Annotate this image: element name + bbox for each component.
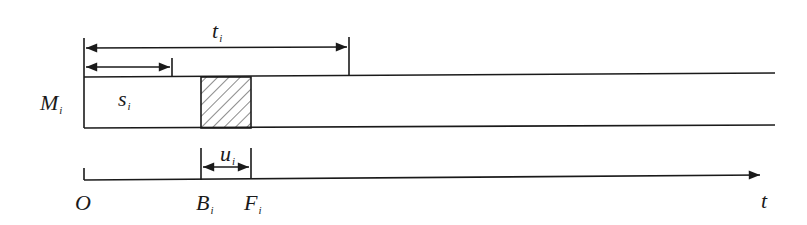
unavailable-duration-label: ui xyxy=(220,143,235,167)
processing-time-label: si xyxy=(118,88,131,112)
machine-label: Mi xyxy=(40,92,62,116)
machine-timeline-diagram: ti Mi si ui O Bi Fi t xyxy=(0,0,807,225)
total-time-label: ti xyxy=(212,20,222,44)
ti-dimension-arrow xyxy=(86,47,347,48)
origin-label: O xyxy=(75,192,92,216)
finish-time-label: Fi xyxy=(244,192,262,216)
machine-band-top xyxy=(84,73,775,77)
unavailable-period-block xyxy=(201,77,251,128)
time-axis-label: t xyxy=(761,190,768,214)
time-axis xyxy=(84,175,760,180)
machine-band-bottom xyxy=(84,125,775,128)
diagram-canvas xyxy=(0,0,807,225)
begin-time-label: Bi xyxy=(196,192,214,216)
